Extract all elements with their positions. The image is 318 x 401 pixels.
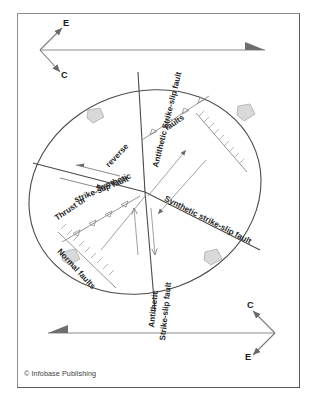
stress-label-extension-top-left: E: [63, 18, 69, 28]
stress-label-compression-top-left: C: [61, 70, 68, 80]
shear-couple-top: [40, 42, 265, 50]
diagram-canvas: [0, 0, 318, 401]
shaded-block-arrows: [62, 104, 255, 265]
copyright-credit: © Infobase Publishing: [24, 369, 96, 378]
strain-ellipse-figure: E C C E Antithetic Strike-slip fault rev…: [0, 0, 318, 401]
shaded-block-nw: [87, 108, 104, 123]
shaded-block-ne: [237, 104, 255, 121]
stress-label-compression-bottom-right: C: [247, 300, 254, 310]
stress-label-extension-bottom-right: E: [245, 352, 251, 362]
